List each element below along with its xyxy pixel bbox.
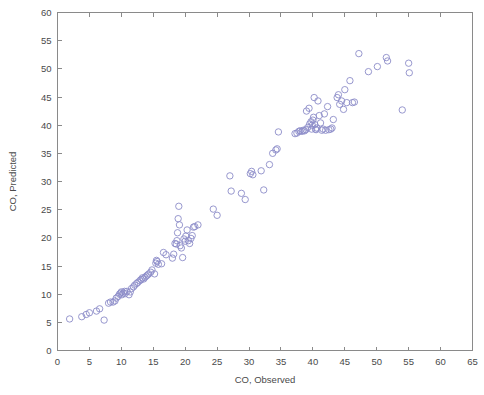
x-tick-label: 50 [371,356,382,367]
data-point [228,188,234,194]
y-tick-label: 55 [41,35,52,46]
data-point [311,94,317,100]
data-point [242,196,248,202]
data-points-group [66,50,412,323]
data-point [317,120,323,126]
data-point [374,63,380,69]
data-point [261,187,267,193]
data-point [214,212,220,218]
y-axis-title: CO, Predicted [7,152,18,212]
y-tick-label: 45 [41,92,52,103]
data-point [227,173,233,179]
data-point [324,103,330,109]
data-point [66,316,72,322]
data-point [171,251,177,257]
x-tick-label: 55 [403,356,414,367]
x-tick-label: 40 [308,356,319,367]
data-point [184,227,190,233]
data-point [176,222,182,228]
y-tick-label: 30 [41,176,52,187]
data-point [169,255,175,261]
x-tick-label: 30 [244,356,255,367]
data-point [266,161,272,167]
data-point [356,50,362,56]
y-tick-label: 15 [41,261,52,272]
x-tick-label: 25 [212,356,223,367]
axes-frame [58,13,473,351]
data-point [175,215,181,221]
x-tick-label: 60 [435,356,446,367]
data-point [315,98,321,104]
x-tick-label: 10 [116,356,127,367]
x-tick-label: 20 [180,356,191,367]
data-point [101,317,107,323]
scatter-plot-figure: 05101520253035404550556065 0510152025303… [0,0,484,395]
x-tick-label: 45 [340,356,351,367]
axes-box [58,13,473,351]
data-point [176,203,182,209]
y-tick-label: 20 [41,232,52,243]
x-tick-label: 15 [148,356,159,367]
x-tick-label: 0 [55,356,60,367]
data-point [365,68,371,74]
data-point [405,60,411,66]
data-point [330,116,336,122]
data-point [347,77,353,83]
x-tick-label: 5 [87,356,92,367]
data-point [258,168,264,174]
data-point [406,70,412,76]
data-point [179,254,185,260]
plot-canvas: 05101520253035404550556065 0510152025303… [0,0,484,395]
x-tick-label: 65 [467,356,478,367]
x-axis-ticks: 05101520253035404550556065 [55,13,478,367]
data-point [174,230,180,236]
data-point [210,206,216,212]
y-tick-label: 50 [41,63,52,74]
y-tick-label: 0 [46,345,51,356]
x-tick-label: 35 [276,356,287,367]
data-point [275,129,281,135]
x-axis-title: CO, Observed [235,374,296,385]
y-tick-label: 5 [46,317,51,328]
y-tick-label: 10 [41,289,52,300]
y-tick-label: 40 [41,120,52,131]
data-point [178,245,184,251]
y-tick-label: 25 [41,204,52,215]
y-axis-ticks: 051015202530354045505560 [41,7,62,356]
data-point [342,86,348,92]
data-point [399,107,405,113]
data-point [340,106,346,112]
data-point [238,190,244,196]
y-tick-label: 60 [41,7,52,18]
y-tick-label: 35 [41,148,52,159]
